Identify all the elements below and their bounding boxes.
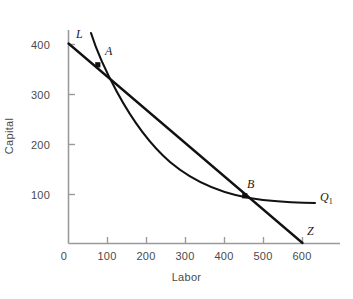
isoquant-isocost-chart: 400 300 200 100 0 100 200 300 400 500 60… bbox=[0, 0, 353, 299]
y-tick-label-300: 300 bbox=[16, 89, 50, 101]
x-tick-label-200: 200 bbox=[137, 250, 156, 262]
x-tick-label-100: 100 bbox=[98, 250, 117, 262]
x-tick-label-500: 500 bbox=[254, 250, 273, 262]
label-b: B bbox=[247, 177, 254, 192]
x-tick-label-300: 300 bbox=[176, 250, 195, 262]
y-tick-label-200: 200 bbox=[16, 139, 50, 151]
point-b-marker bbox=[242, 193, 247, 198]
label-a: A bbox=[105, 44, 112, 59]
x-axis-title: Labor bbox=[20, 271, 353, 283]
x-tick-label-400: 400 bbox=[215, 250, 234, 262]
label-q1: Q1 bbox=[320, 190, 333, 206]
label-l: L bbox=[76, 27, 83, 42]
isoquant-curve-q1 bbox=[91, 33, 315, 203]
y-tick-label-100: 100 bbox=[16, 189, 50, 201]
point-a-marker bbox=[95, 62, 100, 67]
label-q1-subscript: 1 bbox=[329, 197, 333, 206]
label-q1-letter: Q bbox=[320, 190, 329, 204]
y-tick-label-400: 400 bbox=[16, 39, 50, 51]
y-axis-ticks bbox=[69, 45, 76, 195]
x-axis-ticks bbox=[108, 237, 303, 244]
isocost-line-lz bbox=[69, 44, 303, 244]
y-axis-title: Capital bbox=[3, 106, 15, 166]
x-tick-label-600: 600 bbox=[293, 250, 312, 262]
label-z: Z bbox=[307, 224, 314, 239]
x-tick-label-0: 0 bbox=[61, 250, 67, 262]
